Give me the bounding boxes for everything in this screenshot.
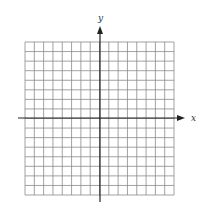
- coordinate-plane: x y: [0, 0, 205, 206]
- y-axis-label: y: [97, 13, 104, 23]
- x-axis-label: x: [191, 113, 196, 123]
- y-axis-arrow-icon: [97, 26, 103, 34]
- x-axis-arrow-icon: [177, 115, 185, 121]
